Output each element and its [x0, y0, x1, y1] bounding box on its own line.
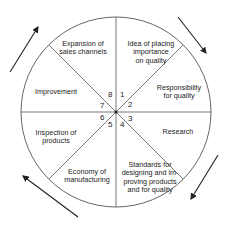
- segment-label-8: Expansion of sales channels: [52, 40, 114, 57]
- segment-label-5: Economy of manufacturing: [60, 168, 114, 185]
- segment-number-3: 3: [128, 114, 132, 123]
- segment-number-6: 6: [100, 113, 104, 122]
- center-dot: [115, 111, 118, 114]
- segment-label-4: Standards for designing and im- proving …: [118, 161, 182, 195]
- segment-label-7: Improvement: [26, 88, 86, 96]
- segment-label-1: Idea of placing importance on quality: [118, 40, 184, 65]
- segment-label-6: Inspection of products: [26, 129, 86, 146]
- segment-label-3: Research: [150, 128, 206, 136]
- segment-number-4: 4: [120, 120, 124, 129]
- segment-number-2: 2: [128, 100, 132, 109]
- arrow-bottom-right-icon: [191, 155, 218, 199]
- segment-label-2: Responsibility for quality: [148, 84, 210, 101]
- quality-cycle-wheel: [0, 0, 226, 227]
- direction-arrows: [10, 17, 218, 217]
- segment-number-1: 1: [120, 90, 124, 99]
- segment-number-7: 7: [100, 101, 104, 110]
- segment-number-5: 5: [108, 120, 112, 129]
- segment-number-8: 8: [108, 90, 112, 99]
